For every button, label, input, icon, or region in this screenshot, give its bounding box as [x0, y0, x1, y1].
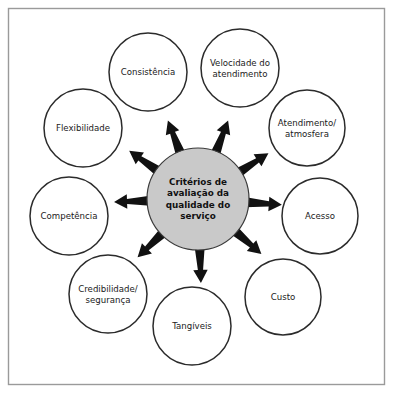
node-credibilidade-seguranca[interactable]: Credibilidade/segurança: [69, 255, 147, 333]
node-label-credibilidade-seguranca: Credibilidade/segurança: [78, 284, 138, 305]
node-label-consistencia: Consistência: [121, 67, 176, 77]
svg-text:atmosfera: atmosfera: [285, 129, 329, 139]
svg-text:serviço: serviço: [180, 211, 216, 221]
node-label-custo: Custo: [271, 292, 296, 302]
node-flexibilidade[interactable]: Flexibilidade: [44, 89, 122, 167]
node-label-acesso: Acesso: [305, 211, 335, 221]
svg-text:Credibilidade/: Credibilidade/: [78, 284, 138, 294]
svg-text:avaliação da: avaliação da: [167, 188, 229, 198]
diagram-frame: ConsistênciaVelocidade doatendimentoAten…: [0, 0, 393, 393]
svg-text:Critérios de: Critérios de: [169, 177, 227, 187]
arrow-to-tangiveis: [193, 247, 207, 283]
node-velocidade-do-atendimento[interactable]: Velocidade doatendimento: [201, 29, 279, 107]
svg-text:segurança: segurança: [86, 295, 131, 305]
svg-text:Atendimento/: Atendimento/: [278, 118, 336, 128]
node-label-tangiveis: Tangíveis: [171, 321, 212, 331]
svg-text:Velocidade do: Velocidade do: [210, 58, 270, 68]
node-label-atendimento-atmosfera: Atendimento/atmosfera: [278, 118, 336, 139]
node-competencia[interactable]: Competência: [30, 177, 108, 255]
svg-text:Competência: Competência: [41, 211, 98, 221]
hub-layer: Critérios deavaliação daqualidade doserv…: [147, 148, 249, 250]
node-tangiveis[interactable]: Tangíveis: [153, 287, 231, 365]
arrow-to-acesso: [246, 197, 282, 211]
arrow-to-competencia: [114, 194, 150, 208]
node-custo[interactable]: Custo: [245, 259, 321, 335]
node-consistencia[interactable]: Consistência: [109, 33, 187, 111]
node-label-flexibilidade: Flexibilidade: [56, 123, 110, 133]
svg-text:Custo: Custo: [271, 292, 296, 302]
svg-text:Tangíveis: Tangíveis: [171, 321, 212, 331]
svg-text:Flexibilidade: Flexibilidade: [56, 123, 110, 133]
svg-text:qualidade do: qualidade do: [166, 200, 230, 210]
svg-text:Acesso: Acesso: [305, 211, 335, 221]
node-label-competencia: Competência: [41, 211, 98, 221]
node-acesso[interactable]: Acesso: [282, 178, 358, 254]
node-label-velocidade-do-atendimento: Velocidade doatendimento: [210, 58, 270, 79]
service-quality-criteria-diagram: ConsistênciaVelocidade doatendimentoAten…: [0, 0, 393, 393]
node-atendimento-atmosfera[interactable]: Atendimento/atmosfera: [269, 90, 345, 166]
svg-text:atendimento: atendimento: [213, 69, 268, 79]
svg-text:Consistência: Consistência: [121, 67, 176, 77]
